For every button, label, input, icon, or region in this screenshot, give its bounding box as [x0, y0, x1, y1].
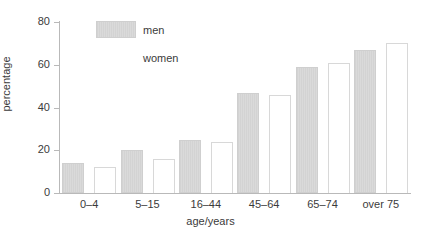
y-axis-tick-label: 60: [8, 59, 50, 70]
plot-area: [60, 22, 410, 193]
bar-women: [153, 159, 175, 193]
legend-swatch-men: [96, 21, 136, 38]
bar-men: [179, 140, 201, 193]
x-axis-category-label: 16–44: [177, 198, 235, 210]
y-axis-tick-label: 40: [8, 102, 50, 113]
bar-women: [328, 63, 350, 193]
y-axis-tick-label: 20: [8, 144, 50, 155]
x-axis-category-label: 65–74: [293, 198, 351, 210]
x-axis-line: [59, 193, 411, 194]
x-axis-title: age/years: [0, 215, 421, 227]
bar-men: [296, 67, 318, 193]
x-axis-category-label: over 75: [352, 198, 410, 210]
bar-men: [354, 50, 376, 193]
x-axis-category-label: 5–15: [118, 198, 176, 210]
legend-swatch-women: [96, 49, 136, 66]
x-axis-category-label: 45–64: [235, 198, 293, 210]
legend-label-women: women: [143, 52, 178, 64]
y-axis-tick-label: 0: [8, 187, 50, 198]
y-axis-title: percentage: [0, 56, 12, 111]
y-axis-tick-label: 80: [8, 16, 50, 27]
bar-chart: 020406080 percentage age/years 0–45–1516…: [0, 0, 421, 237]
bar-men: [121, 150, 143, 193]
bar-women: [386, 43, 408, 193]
bar-men: [237, 93, 259, 193]
legend-label-men: men: [143, 24, 164, 36]
bar-women: [269, 95, 291, 193]
bar-women: [211, 142, 233, 193]
bar-men: [62, 163, 84, 193]
bar-women: [94, 167, 116, 193]
x-axis-category-label: 0–4: [60, 198, 118, 210]
y-axis-tick: [54, 193, 60, 194]
